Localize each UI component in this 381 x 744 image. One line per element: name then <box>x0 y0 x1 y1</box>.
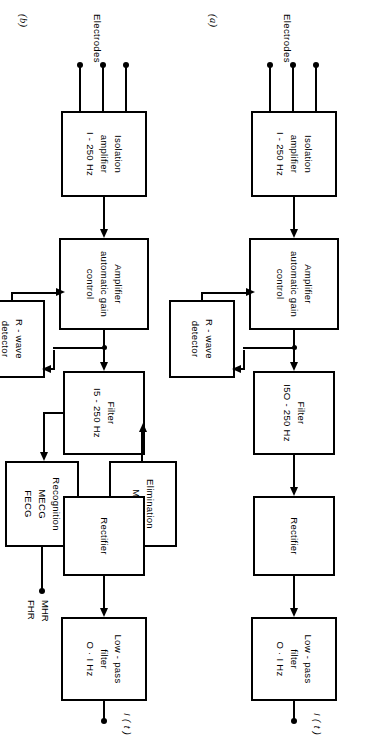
panel-b-wire-elimination-to-rectifier-run <box>141 432 143 461</box>
panel-b-arrow-elimination-to-rectifier <box>140 423 148 432</box>
panel-a-wire-tap-down <box>243 347 295 349</box>
panel-a-arrow-rwave-to-agc <box>246 288 255 296</box>
panel-a-feedback <box>191 0 381 744</box>
panel-a-wire-rwave-up <box>201 292 249 294</box>
figure-canvas: Electrodes Isolation amplifier I - 250 H… <box>0 0 381 744</box>
panel-b-arrow-rwave-to-agc <box>56 288 65 296</box>
panel-b-extra-connectors <box>1 0 191 744</box>
panel-b-wire-tap-down <box>53 347 105 349</box>
panel-b-wire-rwave-up <box>11 292 59 294</box>
